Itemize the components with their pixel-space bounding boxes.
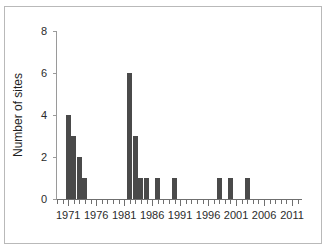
y-tick-8: 8 [53,31,57,32]
x-tick-1983 [135,200,136,204]
x-tick-1995 [203,200,204,204]
x-tick-2000 [230,200,231,204]
y-tick-label-6: 6 [41,68,47,79]
x-tick-1991 [180,200,181,206]
x-tick-1993 [191,200,192,204]
bar-1983 [133,136,138,199]
x-tick-2008 [275,200,276,204]
x-tick-label-2011: 2011 [280,210,304,221]
x-tick-1984 [141,200,142,204]
x-tick-1981 [124,200,125,206]
x-tick-1997 [214,200,215,204]
x-tick-1980 [119,200,120,204]
chart-figure: Number of sites 02468 197119761981198619… [0,0,327,251]
x-tick-1992 [186,200,187,204]
x-tick-1975 [91,200,92,204]
plot-area: 02468 [57,31,301,199]
bar-2003 [245,178,250,199]
x-tick-1986 [152,200,153,206]
x-tick-label-1991: 1991 [168,210,192,221]
y-tick-label-0: 0 [41,194,47,205]
bar-1990 [172,178,177,199]
y-axis-title: Number of sites [10,31,26,199]
x-tick-2002 [242,200,243,204]
y-tick-2: 2 [53,157,57,158]
x-tick-2009 [281,200,282,204]
x-tick-1970 [63,200,64,204]
x-tick-1985 [147,200,148,204]
x-tick-2006 [264,200,265,206]
x-tick-1978 [107,200,108,204]
x-tick-1977 [102,200,103,204]
x-tick-1994 [197,200,198,204]
bar-1982 [127,73,132,199]
x-tick-1998 [219,200,220,204]
y-tick-6: 6 [53,73,57,74]
x-tick-1973 [79,200,80,204]
bar-1985 [144,178,149,199]
y-tick-label-8: 8 [41,26,47,37]
x-tick-2001 [236,200,237,206]
x-tick-1972 [74,200,75,204]
x-tick-1979 [113,200,114,204]
x-tick-1974 [85,200,86,204]
x-tick-label-1986: 1986 [140,210,164,221]
x-tick-1989 [169,200,170,204]
x-tick-label-2001: 2001 [224,210,248,221]
x-tick-1990 [175,200,176,204]
x-tick-2012 [298,200,299,204]
bar-1974 [82,178,87,199]
bar-1973 [77,157,82,199]
x-tick-label-1981: 1981 [112,210,136,221]
x-tick-2011 [292,200,293,206]
x-tick-1999 [225,200,226,204]
bar-2000 [228,178,233,199]
bar-1971 [66,115,71,199]
x-axis-tick-layer: 197119761981198619911996200120062011 [57,200,301,230]
x-tick-label-1996: 1996 [196,210,220,221]
x-tick-1982 [130,200,131,204]
x-tick-2010 [286,200,287,204]
x-tick-label-1971: 1971 [56,210,80,221]
x-tick-2003 [247,200,248,204]
x-tick-1987 [158,200,159,204]
x-tick-1969 [57,200,58,204]
bar-1998 [217,178,222,199]
bar-1972 [71,136,76,199]
bar-1984 [138,178,143,199]
bar-1987 [155,178,160,199]
x-tick-1976 [96,200,97,206]
y-tick-label-4: 4 [41,110,47,121]
x-tick-label-2006: 2006 [252,210,276,221]
x-tick-label-1976: 1976 [84,210,108,221]
x-tick-2004 [253,200,254,204]
y-tick-label-2: 2 [41,152,47,163]
x-tick-1996 [208,200,209,206]
x-tick-1988 [163,200,164,204]
x-tick-2007 [270,200,271,204]
x-tick-2005 [258,200,259,204]
y-tick-4: 4 [53,115,57,116]
x-tick-1971 [68,200,69,206]
